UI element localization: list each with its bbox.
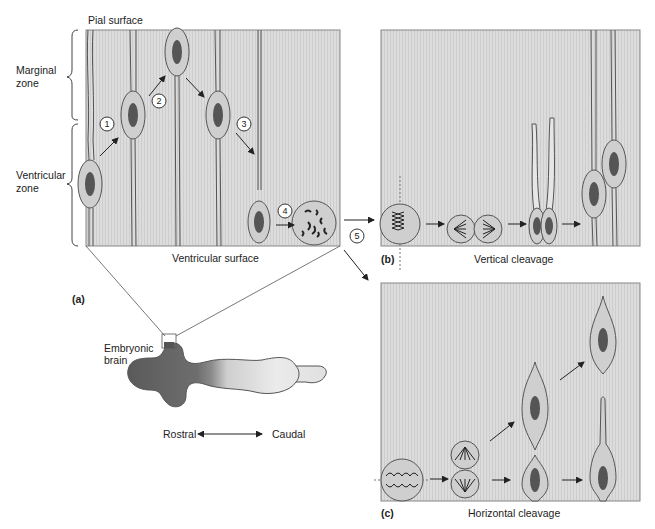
marginal-zone-label-1: Marginal [16, 64, 56, 76]
svg-text:4: 4 [282, 206, 287, 216]
embryonic-brain [128, 334, 327, 407]
marginal-zone-brace [67, 30, 78, 120]
embryonic-brain-label-1: Embryonic [104, 342, 154, 354]
caudal-label: Caudal [272, 428, 305, 440]
neurogenesis-diagram: Pial surface Ventricular surface Margina… [0, 0, 655, 529]
marginal-zone-label-2: zone [16, 77, 39, 89]
panel-a-label: (a) [72, 293, 85, 305]
metaphase-cell-c [381, 459, 423, 501]
svg-text:2: 2 [156, 96, 161, 106]
rostral-label: Rostral [163, 428, 196, 440]
vertical-cleavage-caption: Vertical cleavage [474, 253, 554, 265]
embryonic-brain-label-2: brain [104, 354, 128, 366]
horizontal-cleavage-caption: Horizontal cleavage [468, 507, 560, 519]
panel-b: (b) Vertical cleavage [380, 30, 640, 270]
panel-c: (c) Horizontal cleavage [374, 283, 640, 519]
ventricular-zone-brace [67, 124, 78, 246]
step-3: 3 [237, 117, 251, 131]
step-5: 5 [350, 229, 364, 243]
arrow-to-c [344, 250, 368, 280]
step-2: 2 [152, 94, 166, 108]
projection-line-left [86, 246, 165, 336]
ventricular-surface-label: Ventricular surface [172, 252, 259, 264]
svg-text:1: 1 [104, 119, 109, 129]
ventricular-zone-label-2: zone [16, 182, 39, 194]
step-4: 4 [278, 204, 292, 218]
pial-surface-label: Pial surface [88, 14, 143, 26]
panel-c-label: (c) [381, 507, 394, 519]
step-1: 1 [100, 117, 114, 131]
panel-b-label: (b) [381, 253, 394, 265]
svg-text:3: 3 [241, 119, 246, 129]
svg-text:5: 5 [354, 231, 359, 241]
panel-a: Pial surface Ventricular surface Margina… [16, 14, 374, 440]
ventricular-zone-label-1: Ventricular [16, 169, 66, 181]
metaphase-cell-b [380, 204, 420, 244]
mitotic-cell [292, 201, 336, 245]
